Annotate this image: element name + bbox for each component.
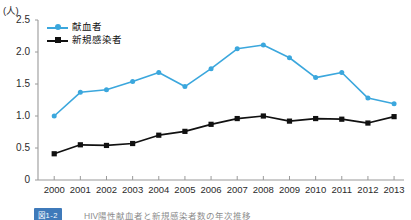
y-tick-label: 2.5 [4, 14, 30, 25]
y-tick-label: 0.5 [4, 142, 30, 153]
data-point-marker [130, 141, 135, 146]
series-layer [52, 42, 397, 156]
figure-caption: 図1-2 HIV陽性献血者と新規感染者数の年次推移 [0, 206, 411, 220]
data-point-marker [365, 96, 370, 101]
chart-figure: (人) 00.51.01.52.02.5 2000200120022003200… [0, 0, 411, 220]
y-tick-label: 0 [4, 174, 30, 185]
y-tick-label: 1.0 [4, 110, 30, 121]
data-point-marker [104, 87, 109, 92]
data-point-marker [52, 114, 57, 119]
data-point-marker [208, 122, 213, 127]
x-axis-ticks [54, 176, 394, 180]
data-point-marker [182, 84, 187, 89]
data-point-marker [209, 66, 214, 71]
data-point-marker [261, 42, 266, 47]
x-tick-label: 2013 [378, 184, 410, 195]
data-point-marker [182, 129, 187, 134]
data-point-marker [156, 133, 161, 138]
series-line-donors [54, 45, 394, 116]
data-point-marker [104, 143, 109, 148]
data-point-marker [391, 114, 396, 119]
data-point-marker [78, 90, 83, 95]
data-point-marker [78, 142, 83, 147]
data-point-marker [365, 120, 370, 125]
y-tick-label: 1.5 [4, 78, 30, 89]
data-point-marker [235, 116, 240, 121]
data-point-marker [392, 101, 397, 106]
legend-marker-donors-icon [47, 22, 68, 33]
data-point-marker [339, 117, 344, 122]
data-point-marker [313, 116, 318, 121]
data-point-marker [156, 70, 161, 75]
data-point-marker [235, 46, 240, 51]
data-point-marker [261, 113, 266, 118]
legend-label-donors: 献血者 [72, 21, 102, 34]
legend-item-new-infections: 新規感染者 [47, 34, 122, 47]
figure-caption-text: HIV陽性献血者と新規感染者数の年次推移 [84, 209, 251, 220]
legend-marker-new-infections-icon [47, 35, 68, 46]
chart-legend: 献血者 新規感染者 [47, 21, 122, 47]
legend-label-new-infections: 新規感染者 [72, 34, 122, 47]
legend-item-donors: 献血者 [47, 21, 122, 34]
data-point-marker [52, 151, 57, 156]
data-point-marker [130, 79, 135, 84]
data-point-marker [287, 119, 292, 124]
data-point-marker [313, 75, 318, 80]
y-tick-label: 2.0 [4, 46, 30, 57]
figure-caption-tag: 図1-2 [34, 208, 62, 220]
data-point-marker [287, 55, 292, 60]
data-point-marker [339, 70, 344, 75]
